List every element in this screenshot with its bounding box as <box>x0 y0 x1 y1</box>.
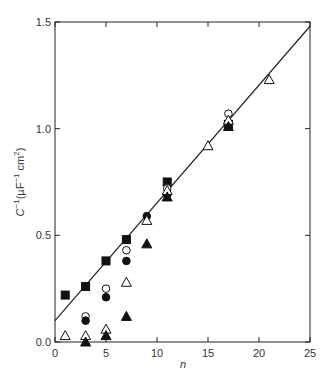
marker-filled-square <box>82 283 90 291</box>
scatter-chart: 05101520250.00.51.01.5 n C−1(µF−1 cm2) <box>0 0 330 386</box>
marker-open-triangle <box>203 141 213 150</box>
svg-text:C−1(µF−1 cm2): C−1(µF−1 cm2) <box>12 148 26 217</box>
y-tick-label: 1.5 <box>36 16 51 28</box>
x-tick-label: 0 <box>52 347 58 359</box>
marker-open-circle <box>123 246 131 254</box>
marker-open-triangle <box>60 331 70 340</box>
linear-fit <box>55 26 310 320</box>
marker-open-triangle <box>264 75 274 84</box>
marker-filled-triangle <box>121 311 131 320</box>
data-points <box>60 75 274 346</box>
x-axis-label: n <box>180 358 186 370</box>
y-tick-label: 1.0 <box>36 123 51 135</box>
marker-filled-square <box>61 291 69 299</box>
marker-filled-triangle <box>142 239 152 248</box>
y-tick-label: 0.5 <box>36 229 51 241</box>
y-axis-label: C−1(µF−1 cm2) <box>12 148 26 217</box>
marker-filled-circle <box>123 257 131 265</box>
x-tick-label: 15 <box>202 347 214 359</box>
marker-filled-circle <box>82 317 90 325</box>
marker-open-triangle <box>121 277 131 286</box>
marker-filled-circle <box>102 293 110 301</box>
x-tick-label: 20 <box>253 347 265 359</box>
marker-filled-square <box>102 257 110 265</box>
x-tick-label: 5 <box>103 347 109 359</box>
marker-filled-square <box>122 236 130 244</box>
x-tick-label: 25 <box>304 347 316 359</box>
y-tick-label: 0.0 <box>36 336 51 348</box>
x-tick-label: 10 <box>151 347 163 359</box>
marker-open-circle <box>102 285 110 293</box>
fit-line <box>55 26 310 320</box>
